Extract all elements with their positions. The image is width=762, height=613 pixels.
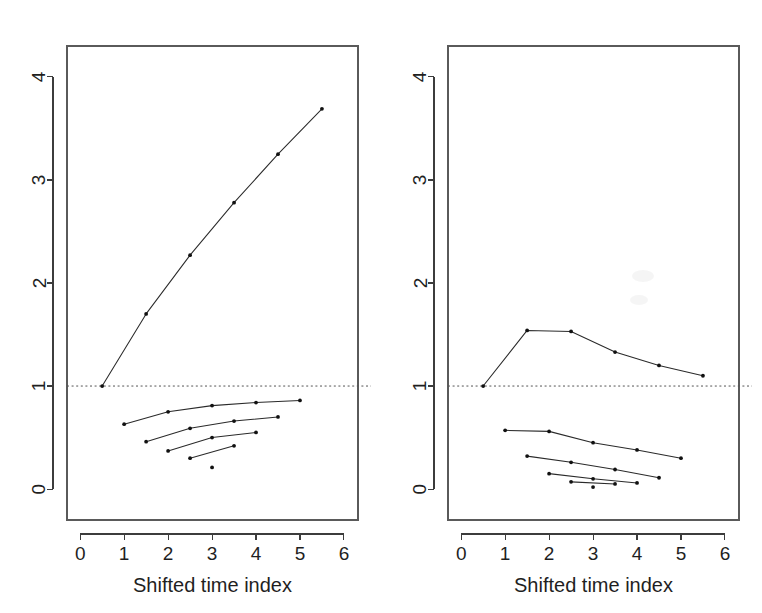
series-point-left-0-1 <box>144 312 148 316</box>
series-point-left-4-1 <box>232 444 236 448</box>
series-point-right-4-0 <box>569 480 573 484</box>
x-tick-label-left-5: 5 <box>295 543 306 564</box>
figure-canvas: 012345601234Shifted time index 012345601… <box>0 0 762 613</box>
series-point-left-2-1 <box>188 426 192 430</box>
series-left-upper-increasing <box>100 107 324 388</box>
series-group-left <box>100 107 324 469</box>
x-tick-label-right-6: 6 <box>720 543 731 564</box>
x-axis-title-right: Shifted time index <box>514 574 673 596</box>
series-point-right-3-0 <box>547 472 551 476</box>
series-point-left-1-4 <box>298 399 302 403</box>
x-tick-label-right-5: 5 <box>676 543 687 564</box>
scan-smudge <box>630 270 654 305</box>
series-right-lower-curve-1 <box>503 428 683 460</box>
x-tick-label-right-1: 1 <box>500 543 511 564</box>
series-point-right-0-5 <box>701 374 705 378</box>
x-tick-label-left-3: 3 <box>207 543 218 564</box>
series-point-left-0-5 <box>320 107 324 111</box>
series-point-right-0-2 <box>569 330 573 334</box>
series-group-right <box>481 329 705 489</box>
series-line-left-3 <box>168 432 256 451</box>
series-point-right-3-1 <box>591 477 595 481</box>
x-tick-label-right-3: 3 <box>588 543 599 564</box>
series-point-right-0-1 <box>525 329 529 333</box>
y-tick-label-left-1: 1 <box>29 381 50 392</box>
x-tick-label-left-6: 6 <box>339 543 350 564</box>
plot-svg-right: 012345601234Shifted time index <box>381 0 762 613</box>
series-point-left-1-1 <box>166 410 170 414</box>
chart-panel-left: 012345601234Shifted time index <box>0 0 381 613</box>
series-point-right-0-3 <box>613 350 617 354</box>
series-left-isolated-point <box>210 466 214 470</box>
series-point-right-1-2 <box>591 441 595 445</box>
chart-panel-right: 012345601234Shifted time index <box>381 0 762 613</box>
x-axis-title-left: Shifted time index <box>133 574 292 596</box>
series-right-lower-curve-2 <box>525 454 661 479</box>
series-point-left-3-1 <box>210 436 214 440</box>
series-point-right-5-0 <box>591 485 595 489</box>
series-point-right-1-0 <box>503 428 507 432</box>
x-tick-label-right-2: 2 <box>544 543 555 564</box>
y-tick-label-left-0: 0 <box>29 484 50 495</box>
y-tick-label-left-2: 2 <box>29 278 50 289</box>
axis-group-right <box>428 77 725 540</box>
series-right-isolated-point <box>591 485 595 489</box>
series-point-right-1-3 <box>635 448 639 452</box>
series-point-left-0-0 <box>100 384 104 388</box>
series-point-left-0-3 <box>232 201 236 205</box>
series-point-left-0-4 <box>276 152 280 156</box>
series-line-right-0 <box>483 330 703 386</box>
series-point-left-0-2 <box>188 253 192 257</box>
series-point-left-1-3 <box>254 401 258 405</box>
y-tick-label-right-1: 1 <box>410 381 431 392</box>
y-tick-label-left-4: 4 <box>29 71 50 82</box>
series-point-right-2-0 <box>525 454 529 458</box>
x-tick-label-left-0: 0 <box>75 543 86 564</box>
y-tick-label-right-2: 2 <box>410 278 431 289</box>
series-line-left-4 <box>190 446 234 458</box>
x-tick-label-left-1: 1 <box>119 543 130 564</box>
series-point-right-0-4 <box>657 364 661 368</box>
x-tick-label-right-0: 0 <box>456 543 467 564</box>
series-point-left-5-0 <box>210 466 214 470</box>
series-line-right-2 <box>527 456 659 478</box>
plot-frame-right <box>448 46 739 520</box>
series-left-lower-curve-1 <box>122 399 302 427</box>
series-left-lower-curve-3 <box>166 431 258 453</box>
x-tick-label-left-4: 4 <box>251 543 262 564</box>
plot-svg-left: 012345601234Shifted time index <box>0 0 381 613</box>
series-point-right-0-0 <box>481 384 485 388</box>
series-point-right-2-3 <box>657 476 661 480</box>
series-point-left-3-0 <box>166 449 170 453</box>
series-left-lower-curve-4 <box>188 444 236 460</box>
series-point-right-2-2 <box>613 468 617 472</box>
series-point-right-1-1 <box>547 429 551 433</box>
y-tick-label-right-4: 4 <box>410 71 431 82</box>
series-point-left-1-0 <box>122 422 126 426</box>
series-right-upper-peaked <box>481 329 705 388</box>
axis-group-left <box>47 77 344 540</box>
series-point-left-2-0 <box>144 440 148 444</box>
series-point-left-2-2 <box>232 419 236 423</box>
series-point-right-2-1 <box>569 460 573 464</box>
plot-box-right <box>448 46 739 520</box>
series-point-left-2-3 <box>276 415 280 419</box>
x-tick-label-left-2: 2 <box>163 543 174 564</box>
series-point-left-1-2 <box>210 404 214 408</box>
series-line-left-0 <box>102 109 322 386</box>
label-group-right: 012345601234Shifted time index <box>410 71 731 596</box>
series-point-right-3-2 <box>635 481 639 485</box>
series-line-right-4 <box>571 482 615 484</box>
y-tick-label-right-3: 3 <box>410 175 431 186</box>
series-point-right-4-1 <box>613 482 617 486</box>
y-tick-label-left-3: 3 <box>29 175 50 186</box>
series-point-right-1-4 <box>679 456 683 460</box>
label-group-left: 012345601234Shifted time index <box>29 71 350 596</box>
x-tick-label-right-4: 4 <box>632 543 643 564</box>
y-tick-label-right-0: 0 <box>410 484 431 495</box>
series-point-left-3-2 <box>254 431 258 435</box>
series-point-left-4-0 <box>188 456 192 460</box>
